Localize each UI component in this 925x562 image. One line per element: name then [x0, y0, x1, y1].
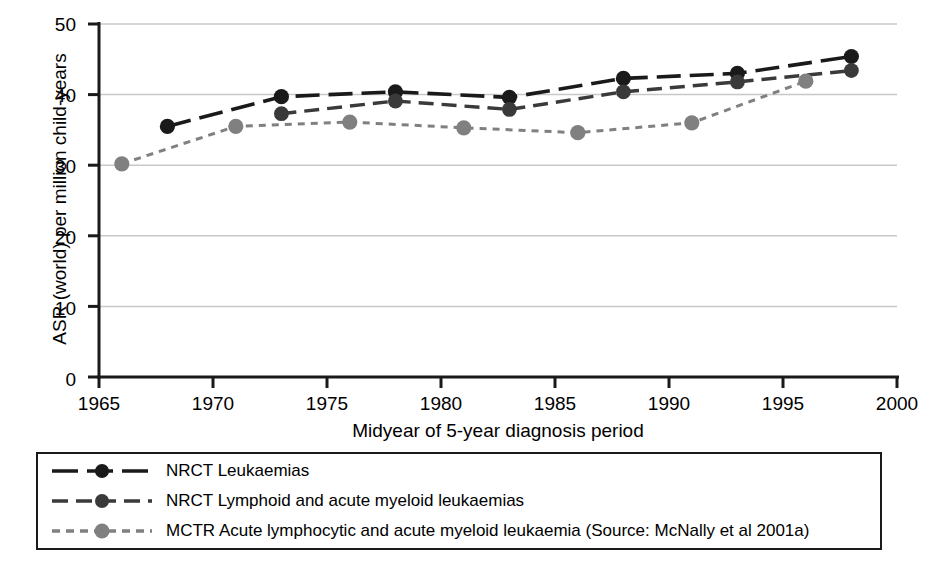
legend-entry-nrct-leukaemias: NRCT Leukaemias	[48, 457, 309, 485]
data-point	[844, 63, 859, 78]
data-point	[388, 94, 403, 109]
legend-swatch-series2	[48, 489, 160, 513]
data-point	[160, 119, 175, 134]
data-point	[114, 156, 129, 171]
data-point	[570, 125, 585, 140]
data-point	[844, 49, 859, 64]
legend-swatch-series1	[48, 459, 160, 483]
data-point	[456, 120, 471, 135]
data-point	[730, 75, 745, 90]
data-point	[502, 102, 517, 117]
series-3	[114, 74, 813, 172]
series-1	[160, 49, 859, 134]
data-point	[684, 115, 699, 130]
data-point	[228, 119, 243, 134]
legend-label-series3: MCTR Acute lymphocytic and acute myeloid…	[166, 521, 809, 541]
chart-figure: ASR (world) per million child-years 50 4…	[0, 0, 925, 562]
legend-label-series2: NRCT Lymphoid and acute myeloid leukaemi…	[166, 491, 524, 511]
data-point	[616, 71, 631, 86]
legend-label-series1: NRCT Leukaemias	[166, 461, 309, 481]
data-point	[798, 74, 813, 89]
plot-area	[0, 0, 925, 450]
legend: NRCT Leukaemias NRCT Lymphoid and acute …	[36, 452, 882, 550]
legend-entry-nrct-lymphoid: NRCT Lymphoid and acute myeloid leukaemi…	[48, 487, 524, 515]
data-point	[616, 84, 631, 99]
data-point	[274, 89, 289, 104]
legend-swatch-series3	[48, 519, 160, 543]
data-point	[274, 106, 289, 121]
data-point	[342, 115, 357, 130]
legend-entry-mctr-acute: MCTR Acute lymphocytic and acute myeloid…	[48, 517, 809, 545]
